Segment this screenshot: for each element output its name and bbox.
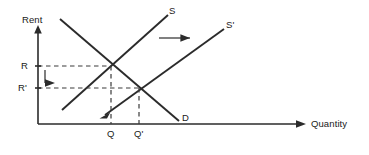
x-axis-arrow-head bbox=[296, 120, 306, 127]
x-axis-title: Quantity bbox=[311, 119, 347, 129]
supply-curve-original bbox=[62, 15, 168, 110]
y-axis bbox=[34, 25, 42, 124]
y-axis-arrow-head bbox=[34, 25, 42, 34]
y-tick-label-R: R bbox=[21, 61, 28, 71]
x-tick-label-Q-prime: Q' bbox=[134, 129, 143, 139]
y-axis-title: Rent bbox=[22, 15, 42, 25]
y-tick-label-R-prime: R' bbox=[18, 83, 27, 93]
x-tick-label-Q: Q bbox=[107, 129, 115, 139]
diagram-canvas bbox=[0, 0, 369, 155]
curve-label-supply-shifted: S' bbox=[226, 20, 234, 30]
curve-label-demand: D bbox=[182, 113, 189, 123]
curve-label-supply-original: S bbox=[169, 6, 175, 16]
demand-curve bbox=[60, 19, 179, 121]
supply-demand-diagram: Rent Quantity R R' Q Q' S S' D bbox=[0, 0, 369, 155]
supply-shift-tail-arrow-head bbox=[100, 113, 111, 119]
x-axis bbox=[38, 120, 306, 127]
